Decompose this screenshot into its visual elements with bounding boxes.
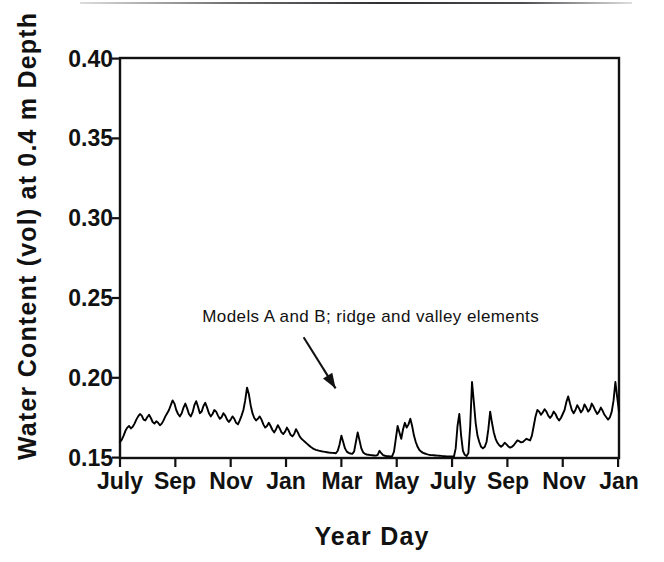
x-tick-label: July (430, 468, 476, 494)
x-tick-label: Jan (266, 468, 306, 494)
x-tick-label: Sep (154, 468, 196, 494)
x-tick-label: Nov (209, 468, 253, 494)
y-axis-tick-labels: 0.15 0.20 0.25 0.30 0.35 0.40 (68, 46, 113, 471)
annotation-label: Models A and B; ridge and valley element… (202, 307, 539, 326)
y-tick-label: 0.40 (68, 46, 113, 72)
water-content-line-chart: Water Content (vol) at 0.4 m Depth 0.15 … (0, 0, 664, 562)
x-tick-label: May (375, 468, 420, 494)
x-tick-label: Mar (322, 468, 363, 494)
x-axis-tick-marks (120, 458, 618, 467)
x-tick-label: July (97, 468, 143, 494)
data-series-line (120, 382, 619, 457)
y-tick-label: 0.20 (68, 365, 113, 391)
x-axis-tick-labels: July Sep Nov Jan Mar May July Sep Nov Ja… (97, 468, 639, 494)
y-tick-label: 0.30 (68, 205, 113, 231)
y-tick-label: 0.25 (68, 285, 113, 311)
x-axis-title: Year Day (314, 522, 429, 550)
y-tick-label: 0.35 (68, 125, 113, 151)
x-tick-label: Nov (542, 468, 586, 494)
plot-frame (120, 58, 619, 458)
x-tick-label: Jan (599, 468, 639, 494)
scanner-streak-artifact (80, 2, 632, 4)
y-axis-title: Water Content (vol) at 0.4 m Depth (13, 12, 41, 460)
annotation-arrow (304, 337, 336, 388)
figure-container: Water Content (vol) at 0.4 m Depth 0.15 … (0, 0, 664, 562)
x-tick-label: Sep (487, 468, 529, 494)
